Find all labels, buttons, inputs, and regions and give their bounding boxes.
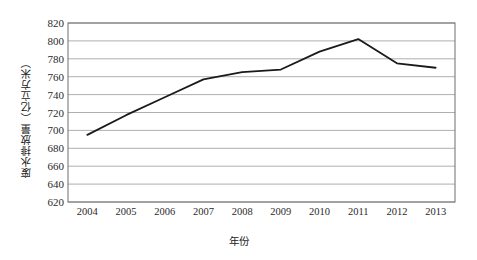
- line-chart: 废水排放量（亿立方米） 6206406606807007207407607808…: [0, 0, 477, 260]
- x-axis-title: 年份: [0, 233, 477, 248]
- x-axis-tick-label: 2004: [77, 206, 98, 217]
- x-axis-tick-label: 2007: [193, 206, 214, 217]
- x-axis-tick-label: 2008: [232, 206, 253, 217]
- x-axis-tick-label: 2006: [154, 206, 175, 217]
- x-axis-tick-label: 2013: [425, 206, 446, 217]
- x-axis-tick-label: 2005: [116, 206, 137, 217]
- x-axis-tick-labels: 2004200520062007200820092010201120122013: [0, 0, 477, 260]
- x-axis-tick-label: 2011: [348, 206, 369, 217]
- x-axis-tick-label: 2009: [270, 206, 291, 217]
- x-axis-tick-label: 2012: [386, 206, 407, 217]
- x-axis-tick-label: 2010: [309, 206, 330, 217]
